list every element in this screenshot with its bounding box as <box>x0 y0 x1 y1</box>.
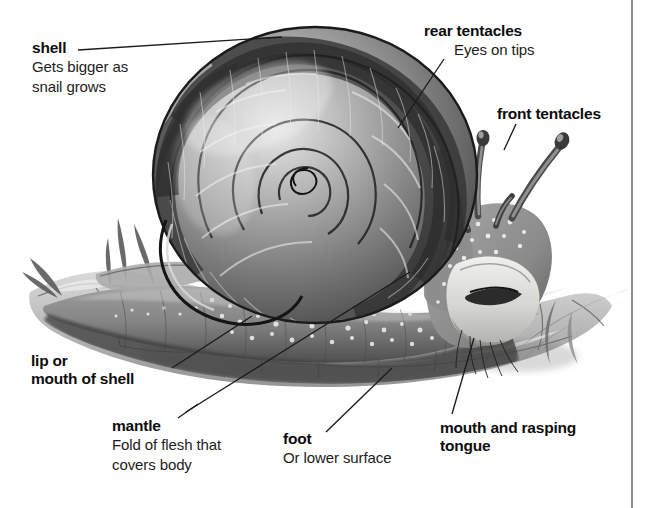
callout-mouth-and-rasping-tongue: mouth and rasping tongue <box>440 419 576 454</box>
callout-mouth-title: mouth and rasping tongue <box>440 419 576 454</box>
figure-page: shell Gets bigger as snail grows rear te… <box>0 0 655 508</box>
callout-front-tentacles: front tentacles <box>497 105 601 123</box>
leader-front-tentacles <box>504 124 516 150</box>
callout-foot-subtitle: Or lower surface <box>283 448 391 468</box>
callout-shell-title: shell <box>32 39 128 57</box>
right-margin-rule <box>631 0 633 508</box>
callout-shell: shell Gets bigger as snail grows <box>32 39 128 97</box>
callout-rear-tentacles-subtitle: Eyes on tips <box>454 40 535 60</box>
callout-lip-or-mouth-of-shell: lip or mouth of shell <box>31 352 134 387</box>
leader-mantle-a <box>178 404 198 418</box>
callout-front-tentacles-title: front tentacles <box>497 105 601 123</box>
callout-foot: foot Or lower surface <box>283 430 391 468</box>
callout-lip-title: lip or mouth of shell <box>31 352 134 387</box>
callout-mantle-title: mantle <box>112 417 221 435</box>
callout-rear-tentacles: rear tentacles Eyes on tips <box>424 22 535 60</box>
callout-mantle-subtitle: Fold of flesh that covers body <box>112 435 221 475</box>
callout-shell-subtitle: Gets bigger as snail grows <box>32 57 128 97</box>
callout-mantle: mantle Fold of flesh that covers body <box>112 417 221 475</box>
callout-rear-tentacles-title: rear tentacles <box>424 22 535 40</box>
callout-foot-title: foot <box>283 430 391 448</box>
